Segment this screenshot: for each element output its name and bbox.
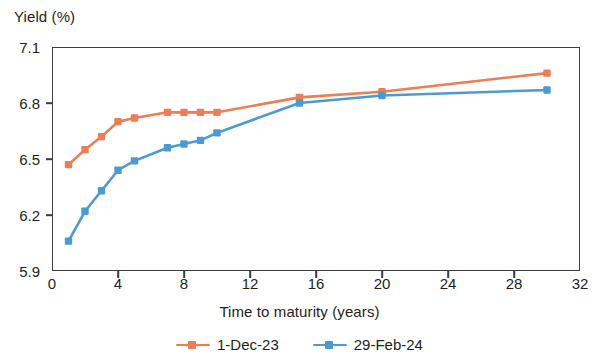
legend-item[interactable]: 1-Dec-23	[176, 336, 279, 353]
x-axis-tick-label: 32	[572, 275, 589, 292]
y-axis-tick-mark	[46, 102, 53, 104]
yield-curve-chart: Yield (%) 5.96.26.56.87.1 04812162024283…	[0, 0, 599, 362]
x-axis-tick-mark	[447, 271, 449, 278]
y-axis-tick-label: 6.8	[0, 95, 40, 112]
y-axis-tick-mark	[46, 214, 53, 216]
y-axis-tick-label: 5.9	[0, 263, 40, 280]
y-axis-title: Yield (%)	[14, 8, 75, 25]
x-axis-title: Time to maturity (years)	[0, 303, 599, 320]
legend-item[interactable]: 29-Feb-24	[313, 336, 423, 353]
x-axis-tick-mark	[513, 271, 515, 278]
x-axis-tick-mark	[315, 271, 317, 278]
x-axis-tick-mark	[117, 271, 119, 278]
y-axis-tick-mark	[46, 158, 53, 160]
x-axis-tick-label: 0	[48, 275, 56, 292]
plot-area	[52, 47, 580, 271]
x-axis-tick-mark	[249, 271, 251, 278]
legend-swatch-icon	[176, 339, 210, 351]
legend-label: 1-Dec-23	[217, 336, 279, 353]
legend-swatch-icon	[313, 339, 347, 351]
chart-legend: 1-Dec-2329-Feb-24	[0, 336, 599, 353]
x-axis-tick-mark	[381, 271, 383, 278]
y-axis-tick-label: 7.1	[0, 39, 40, 56]
x-axis-tick-mark	[183, 271, 185, 278]
y-axis-tick-label: 6.2	[0, 207, 40, 224]
legend-label: 29-Feb-24	[354, 336, 423, 353]
y-axis-tick-label: 6.5	[0, 151, 40, 168]
